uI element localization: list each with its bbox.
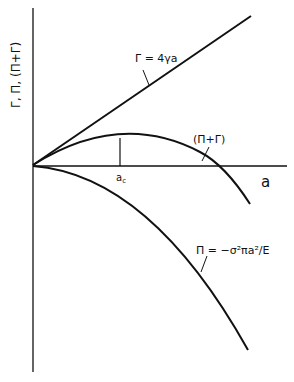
pi-label: Π = −σ²πa²/E bbox=[196, 244, 270, 257]
gamma-label: Γ = 4γa bbox=[135, 52, 178, 65]
gamma-leader bbox=[143, 70, 149, 85]
diagram-svg: Γ, Π, (Π+Γ) a ac Γ = 4γa (Π+Γ) Π = −σ²πa… bbox=[0, 0, 294, 382]
critical-marker-label: ac bbox=[116, 172, 126, 185]
y-axis-label: Γ, Π, (Π+Γ) bbox=[9, 42, 23, 108]
energy-crack-diagram: Γ, Π, (Π+Γ) a ac Γ = 4γa (Π+Γ) Π = −σ²πa… bbox=[0, 0, 294, 382]
sum-label: (Π+Γ) bbox=[193, 133, 225, 146]
pi-curve bbox=[33, 166, 248, 350]
x-axis-label: a bbox=[261, 173, 270, 191]
pi-leader bbox=[201, 256, 207, 272]
